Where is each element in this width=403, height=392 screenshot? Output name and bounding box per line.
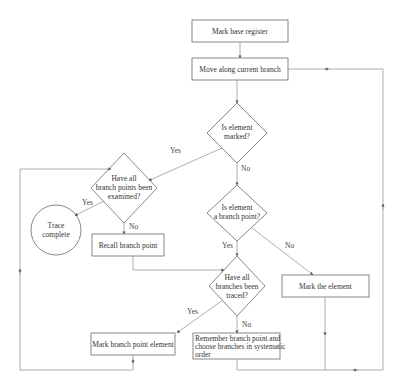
is-marked-line1: Is element [207, 123, 267, 132]
points-no-label: No [129, 222, 138, 231]
all-points-line2: branch points been [91, 183, 157, 192]
all-branches-line2: branches been [209, 282, 265, 291]
bp-no-label: No [285, 241, 294, 250]
is-bp-line1: Is element [207, 203, 267, 212]
is-bp-line2: a branch point? [207, 212, 267, 221]
marked-yes-label: Yes [170, 146, 181, 155]
all-branches-line1: Have all [209, 273, 265, 282]
branches-no-label: No [242, 320, 251, 329]
all-points-line1: Have all [91, 174, 157, 183]
all-points-line3: examined? [91, 192, 157, 201]
bp-yes-label: Yes [222, 241, 233, 250]
marked-no-label: No [241, 164, 250, 173]
mark-bp-element-label: Mark branch point element [91, 333, 175, 355]
points-yes-label: Yes [82, 198, 93, 207]
trace-complete-line1: Trace [31, 221, 81, 230]
mark-base-register-label: Mark base register [192, 20, 288, 42]
branches-yes-label: Yes [187, 307, 198, 316]
mark-the-element-label: Mark the element [282, 275, 369, 297]
recall-branch-point-label: Recall branch point [92, 234, 164, 256]
is-marked-line2: marked? [207, 132, 267, 141]
trace-complete-line2: complete [31, 230, 81, 239]
all-branches-line3: traced? [209, 291, 265, 300]
move-along-branch-label: Move along current branch [192, 58, 288, 80]
remember-bp-line3: order [195, 350, 211, 359]
